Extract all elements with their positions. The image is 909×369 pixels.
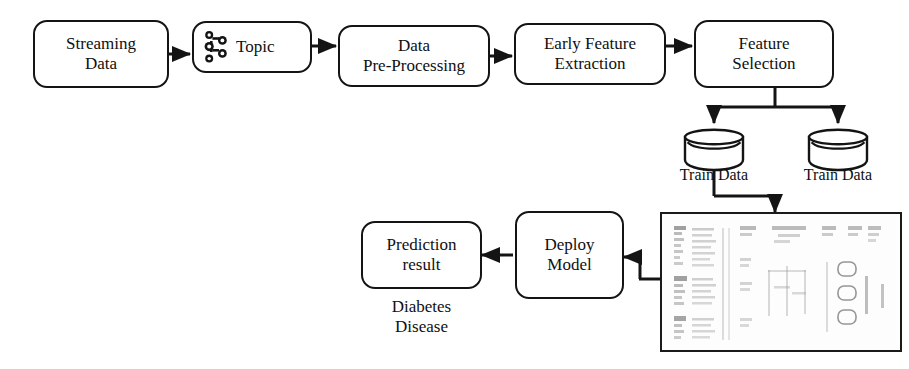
node-prediction-result-label: Prediction result [387, 235, 457, 274]
node-early-feature-extraction-label: Early Feature Extraction [544, 34, 636, 73]
data-table-marks [662, 214, 900, 350]
caption-diabetes-disease: Diabetes Disease [361, 297, 482, 336]
node-deploy-model-label: Deploy Model [544, 235, 594, 274]
node-feature-selection-label: Feature Selection [732, 34, 795, 73]
node-data-table-thumbnail[interactable] [660, 212, 902, 352]
node-streaming-data[interactable]: Streaming Data [33, 20, 169, 88]
node-prediction-result[interactable]: Prediction result [361, 221, 482, 289]
node-data-preprocessing[interactable]: Data Pre-Processing [338, 25, 490, 87]
node-streaming-data-label: Streaming Data [66, 34, 136, 73]
flowchart-diagram: Streaming Data Topic Da [0, 0, 909, 369]
node-feature-selection[interactable]: Feature Selection [694, 20, 834, 88]
node-deploy-model[interactable]: Deploy Model [515, 211, 624, 299]
node-train-data-right-label: Train Data [788, 166, 888, 184]
kafka-icon [203, 30, 229, 64]
node-train-data-left-label: Train Data [664, 166, 764, 184]
node-data-preprocessing-label: Data Pre-Processing [363, 36, 465, 75]
node-topic[interactable]: Topic [192, 21, 312, 73]
node-early-feature-extraction[interactable]: Early Feature Extraction [514, 23, 666, 85]
node-topic-label: Topic [236, 37, 274, 57]
